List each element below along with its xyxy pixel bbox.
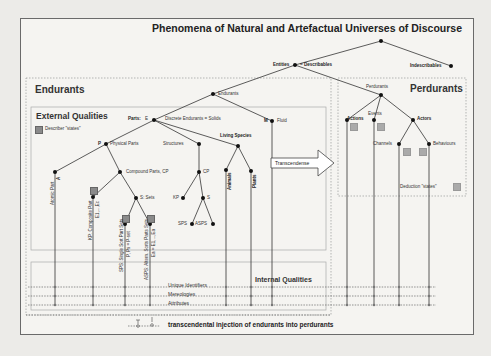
node-composite-expr: E1,...,Ec bbox=[96, 201, 101, 218]
state-marker bbox=[419, 148, 427, 156]
node-fluid-m: M bbox=[264, 119, 268, 124]
panel-endurants-title: Endurants bbox=[35, 85, 84, 95]
node-indescribables: Indescribables bbox=[410, 64, 442, 69]
node-actions: Actions bbox=[347, 117, 364, 122]
deduction-states-label: Deduction "states" bbox=[400, 185, 437, 190]
node-discrete-endurants: Discrete Endurants = Solids bbox=[165, 117, 221, 122]
node-atomic-a: A bbox=[57, 177, 62, 180]
state-marker bbox=[377, 123, 385, 131]
transcendence-arrow-label: Transcendense bbox=[275, 160, 309, 166]
node-physical-p: P bbox=[98, 142, 101, 147]
node-actors: Actors bbox=[417, 117, 431, 122]
node-events: Events bbox=[368, 112, 382, 117]
deduction-states-marker bbox=[453, 183, 461, 191]
node-single-sort-sets: SPS: Single Sort Part Sets bbox=[120, 219, 125, 272]
internal-mereologies: Mereologies bbox=[168, 292, 195, 297]
node-alt-sort-sets: ASPS: Altern. Sorts Parts Sets bbox=[145, 219, 150, 280]
node-kp: KP bbox=[173, 196, 179, 201]
diagram-title: Phenomena of Natural and Artefactual Uni… bbox=[152, 23, 462, 34]
describer-states-label: Describer "states" bbox=[45, 127, 81, 132]
panel-perdurants-title: Perdurants bbox=[410, 84, 463, 94]
state-marker bbox=[403, 148, 411, 156]
node-endurants: Endurants bbox=[218, 92, 239, 97]
node-asps: ASPS bbox=[195, 222, 207, 227]
diagram-lines bbox=[0, 0, 491, 356]
node-cp: CP bbox=[203, 170, 209, 175]
node-sets: S: Sets bbox=[140, 196, 155, 201]
node-fluid: Fluid bbox=[277, 119, 287, 124]
node-structures: Structures bbox=[163, 142, 184, 147]
node-animals: Animals bbox=[228, 172, 233, 190]
footer-legend-text: transcendental injection of endurants in… bbox=[168, 322, 333, 329]
state-marker bbox=[90, 187, 98, 195]
node-parts-e: E bbox=[145, 117, 148, 122]
node-perdurants: Perdurants bbox=[366, 85, 388, 90]
node-channels: Channels bbox=[373, 142, 392, 147]
state-marker bbox=[350, 123, 358, 131]
node-atomic-part: Atomic Part bbox=[51, 182, 56, 205]
node-behaviours: Behaviours bbox=[433, 142, 456, 147]
panel-external-qualities-title: External Qualities bbox=[36, 112, 108, 121]
node-entities: Entities bbox=[273, 63, 289, 68]
node-single-sort-expr: P, Ps = P-set bbox=[127, 231, 132, 257]
node-sps: SPS bbox=[178, 222, 187, 227]
internal-attributes: Attributes bbox=[168, 301, 189, 306]
node-alt-sort-expr: Ea = E1,...,Ea bbox=[152, 229, 157, 257]
node-living-species: Living Species bbox=[220, 134, 252, 139]
node-describables: = Describables bbox=[300, 63, 332, 68]
describer-states-marker bbox=[35, 126, 43, 134]
internal-unique-identifiers: Unique Identifiers bbox=[168, 283, 207, 288]
panel-internal-qualities-title: Internal Qualities bbox=[255, 276, 312, 283]
node-parts: Parts: bbox=[128, 117, 141, 122]
node-s: S bbox=[207, 196, 210, 201]
node-physical-parts: Physical Parts bbox=[110, 142, 139, 147]
node-composite-part: KP: Composite Part bbox=[89, 200, 94, 240]
node-compound-parts: Compound Parts, CP bbox=[126, 170, 169, 175]
node-plants: Plants bbox=[253, 174, 258, 188]
